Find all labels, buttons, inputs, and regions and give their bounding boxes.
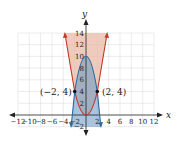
svg-text:10: 10	[138, 118, 147, 126]
svg-text:2: 2	[80, 100, 84, 108]
label-point-right: (2, 4)	[102, 87, 126, 97]
point-left	[73, 90, 77, 94]
x-axis-label: x	[166, 110, 171, 120]
svg-text:10: 10	[75, 53, 84, 61]
y-arrow-up-icon	[84, 19, 89, 25]
svg-text:8: 8	[129, 118, 133, 126]
svg-text:−2: −2	[74, 123, 84, 131]
svg-text:−8: −8	[35, 118, 45, 126]
svg-text:4: 4	[106, 118, 111, 126]
graph: (−2, 4) (2, 4) x y −12 −10 −8 −6 −4 −2 2…	[0, 0, 180, 149]
y-axis-label: y	[81, 9, 88, 19]
label-point-left: (−2, 4)	[40, 87, 72, 97]
svg-text:−6: −6	[47, 118, 58, 126]
svg-text:12: 12	[150, 118, 159, 126]
x-arrow-left-icon	[9, 113, 15, 118]
svg-text:8: 8	[80, 65, 84, 73]
svg-text:4: 4	[80, 88, 85, 96]
x-arrow-right-icon	[157, 113, 163, 118]
svg-text:12: 12	[75, 41, 84, 49]
svg-text:2: 2	[95, 118, 99, 126]
svg-text:−4: −4	[58, 118, 69, 126]
svg-text:6: 6	[80, 76, 85, 84]
svg-text:6: 6	[118, 118, 123, 126]
y-arrow-down-icon	[84, 130, 89, 136]
point-right	[96, 90, 100, 94]
axes	[12, 22, 160, 133]
svg-text:14: 14	[75, 30, 84, 38]
